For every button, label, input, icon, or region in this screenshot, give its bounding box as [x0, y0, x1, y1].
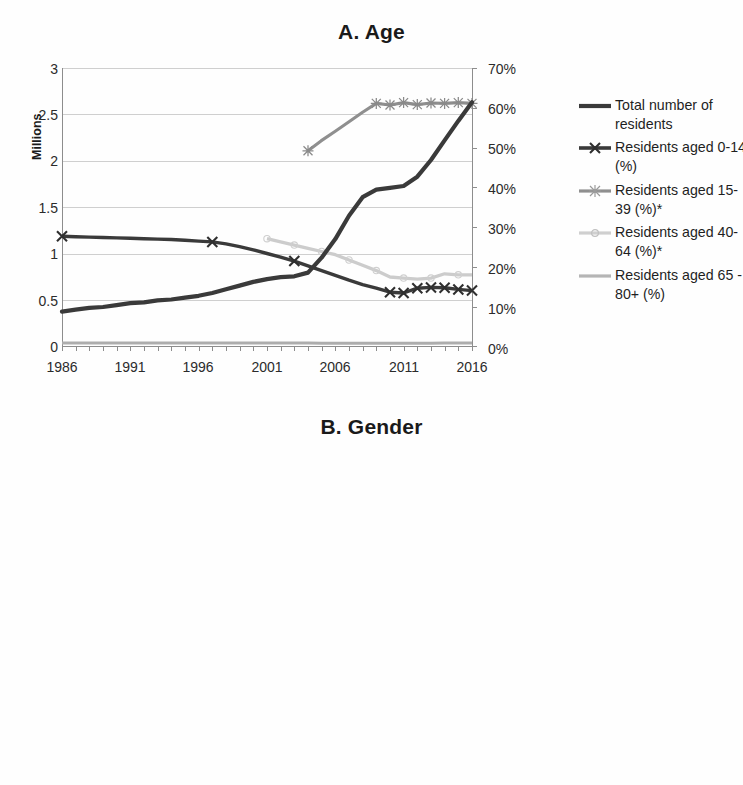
chart-a-ytick-left-0: 3 — [16, 62, 58, 76]
legend-item-aged-40-64[interactable]: Residents aged 40-64 (%)* — [578, 223, 743, 260]
chart-a-ytick-right-7: 0% — [488, 342, 534, 356]
chart-a-ytick-left-2: 2 — [16, 154, 58, 168]
chart-a-ytick-right-3: 40% — [488, 182, 534, 196]
chart-a-ytick-left-5: 0.5 — [16, 294, 58, 308]
chart-a-ytick-right-2: 50% — [488, 142, 534, 156]
chart-a-plot-area — [62, 68, 473, 347]
chart-a-ytick-right-0: 70% — [488, 62, 534, 76]
chart-a-ytick-right-1: 60% — [488, 102, 534, 116]
figure-page: A. Age Millions 3 2.5 2 1.5 1 0.5 0 70% … — [0, 0, 743, 785]
chart-a-xtick-5: 2011 — [378, 360, 430, 374]
legend-item-aged-0-14[interactable]: Residents aged 0-14 (%) — [578, 138, 743, 175]
chart-a-series-canvas — [62, 68, 473, 347]
chart-a-ytick-right-5: 20% — [488, 262, 534, 276]
panel-age: A. Age Millions 3 2.5 2 1.5 1 0.5 0 70% … — [0, 0, 743, 394]
legend-line-star-icon — [578, 183, 612, 199]
chart-b-title: B. Gender — [0, 415, 743, 439]
chart-a-title: A. Age — [0, 20, 743, 44]
chart-a-xtick-3: 2001 — [241, 360, 293, 374]
chart-a-ytick-right-6: 10% — [488, 302, 534, 316]
panel-gender: B. Gender Millions 3.0 2.5 2.0 1.5 1.0 0… — [0, 393, 743, 785]
chart-a-legend: Total number of residents Residents aged… — [578, 96, 743, 308]
legend-line-icon — [578, 98, 612, 114]
chart-a-ytick-left-3: 1.5 — [16, 201, 58, 215]
chart-a-xtick-0: 1986 — [36, 360, 88, 374]
legend-line-circle-icon — [578, 225, 612, 241]
series-aged-15-39-markers — [303, 97, 478, 156]
chart-a-xtick-4: 2006 — [309, 360, 361, 374]
legend-item-total-residents[interactable]: Total number of residents — [578, 96, 743, 133]
legend-label: Residents aged 0-14 (%) — [615, 138, 743, 175]
legend-label: Residents aged 65 - 80+ (%) — [615, 266, 743, 303]
chart-a-xtick-1: 1991 — [104, 360, 156, 374]
legend-item-aged-65-80plus[interactable]: Residents aged 65 - 80+ (%) — [578, 266, 743, 303]
legend-line-x-icon — [578, 140, 612, 156]
legend-label: Residents aged 15-39 (%)* — [615, 181, 743, 218]
legend-label: Total number of residents — [615, 96, 743, 133]
legend-item-aged-15-39[interactable]: Residents aged 15-39 (%)* — [578, 181, 743, 218]
chart-a-ytick-left-6: 0 — [16, 340, 58, 354]
chart-a-xtick-6: 2016 — [446, 360, 498, 374]
legend-line-icon — [578, 268, 612, 284]
series-aged-0-14 — [62, 236, 472, 293]
chart-a-xtick-2: 1996 — [172, 360, 224, 374]
chart-a-ytick-right-4: 30% — [488, 222, 534, 236]
chart-a-ytick-left-1: 2.5 — [16, 108, 58, 122]
legend-label: Residents aged 40-64 (%)* — [615, 223, 743, 260]
chart-a-ytick-left-4: 1 — [16, 247, 58, 261]
